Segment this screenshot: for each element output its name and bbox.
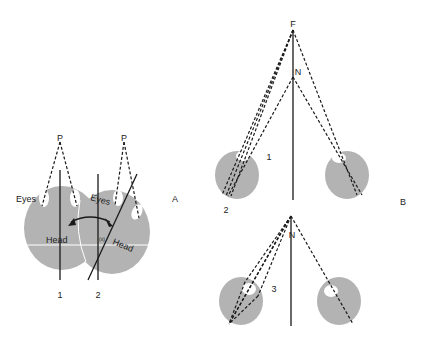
fixation-point-label: P <box>121 133 127 143</box>
eyeball-right-bottom <box>317 277 361 325</box>
eyeball-right-top <box>325 151 369 199</box>
eyeball-left-bottom <box>219 277 263 325</box>
case-1-label: 1 <box>266 152 271 162</box>
case-2-label: 2 <box>223 205 228 215</box>
case-3-label: 3 <box>271 284 276 294</box>
sight-line <box>228 77 293 196</box>
panel-b-label: B <box>400 197 406 207</box>
panel-b: F N 1 2 N 3 B <box>215 19 406 326</box>
near-point-label: N <box>295 67 302 77</box>
position-2-label: 2 <box>95 290 100 300</box>
near-point-label: N <box>289 230 296 240</box>
eye-1-left <box>39 189 49 207</box>
panel-a-label: A <box>172 194 178 204</box>
vision-diagram: P P Eyes Eyes Head Head (x) 1 2 A F N 1 … <box>0 0 423 338</box>
head-label: Head <box>46 235 68 245</box>
position-1-label: 1 <box>57 290 62 300</box>
eyes-label: Eyes <box>16 194 37 204</box>
far-point-label: F <box>290 19 296 29</box>
angle-label: (x) <box>99 236 105 242</box>
sight-line <box>226 30 293 196</box>
panel-a: P P Eyes Eyes Head Head (x) 1 2 A <box>16 133 178 300</box>
fixation-point-label: P <box>57 133 63 143</box>
sight-line <box>231 30 293 196</box>
eye-2-left <box>113 190 123 206</box>
